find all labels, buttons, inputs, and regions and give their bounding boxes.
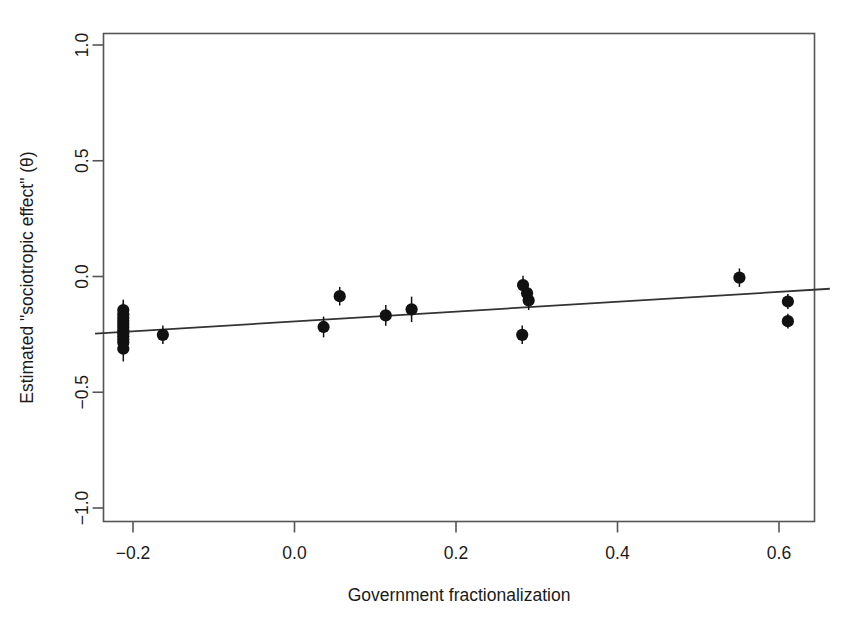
data-point [733, 272, 745, 284]
y-tick-label: −0.5 [72, 375, 92, 410]
x-tick-label: 0.2 [444, 543, 468, 563]
x-axis-title: Government fractionalization [348, 585, 571, 605]
data-point [117, 343, 129, 355]
y-tick-label: 0.0 [72, 264, 92, 289]
scatter-plot-figure: −0.20.00.20.40.61.00.50.0−0.5−1.0 Govern… [0, 0, 845, 627]
data-points-layer [117, 268, 794, 361]
x-tick-label: 0.4 [605, 543, 630, 563]
plot-frame [104, 34, 815, 522]
data-point [380, 309, 392, 321]
y-tick-label: 1.0 [72, 33, 92, 58]
x-tick-label: −0.2 [116, 543, 151, 563]
y-axis-title: Estimated "sociotropic effect" (θ) [17, 151, 37, 403]
y-tick-label: 0.5 [72, 149, 92, 173]
axes-frame-layer [104, 34, 815, 522]
data-point [516, 329, 528, 341]
plot-canvas: −0.20.00.20.40.61.00.50.0−0.5−1.0 Govern… [0, 0, 845, 627]
regression-line [95, 289, 830, 334]
data-point [405, 303, 417, 315]
data-point [782, 315, 794, 327]
data-point [334, 290, 346, 302]
data-point [157, 329, 169, 341]
regression-line-layer [95, 289, 830, 334]
x-tick-label: 0.0 [282, 543, 307, 563]
axis-labels-layer: Government fractionalizationEstimated "s… [17, 151, 570, 605]
data-point [317, 321, 329, 333]
data-point [782, 295, 794, 307]
x-tick-label: 0.6 [767, 543, 791, 563]
data-point [523, 294, 535, 306]
y-tick-label: −1.0 [72, 490, 92, 525]
